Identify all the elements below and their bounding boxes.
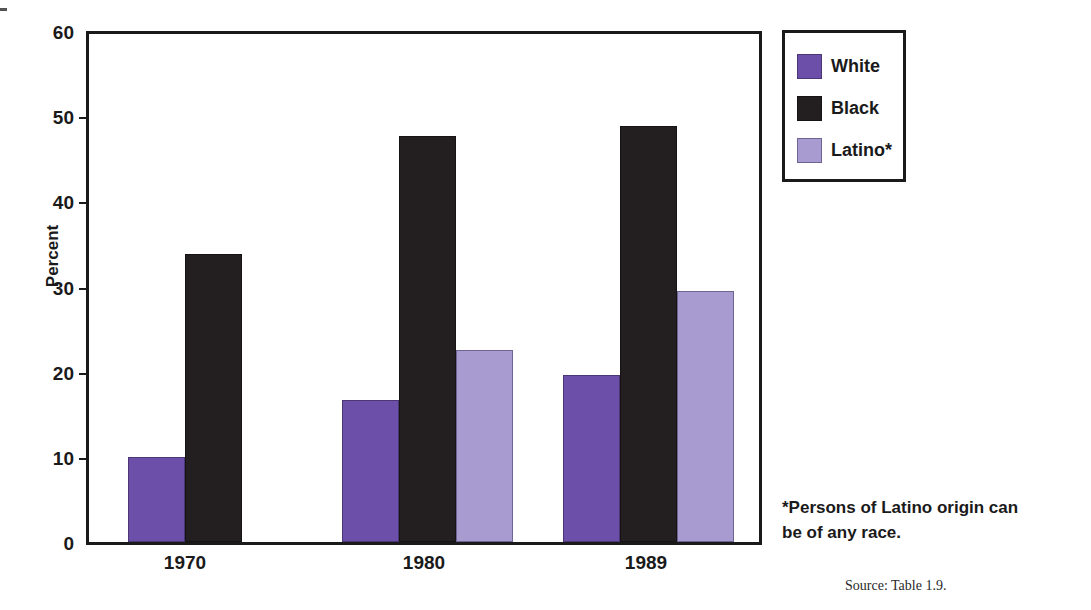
legend-label-latino: Latino* [831, 140, 892, 161]
chart-source: Source: Table 1.9. [845, 578, 1085, 594]
bars-container [89, 34, 759, 542]
x-axis-label-1989: 1989 [566, 553, 726, 572]
x-axis-label-1980: 1980 [344, 553, 504, 572]
bar-1980-white [342, 400, 399, 542]
y-tick-label-0: 0 [14, 534, 74, 553]
legend-item-latino: Latino* [797, 129, 903, 171]
bar-1989-latino [677, 291, 734, 542]
plot-area [86, 31, 762, 545]
bar-1970-white [128, 457, 185, 543]
y-tick-label-60: 60 [14, 23, 74, 42]
legend-label-black: Black [831, 98, 879, 119]
x-axis-label-1970: 1970 [105, 553, 265, 572]
footnote-line-1: *Persons of Latino origin can [782, 496, 1082, 521]
chart-footnote: *Persons of Latino origin can be of any … [782, 496, 1082, 545]
bar-1980-latino [456, 350, 513, 542]
y-tick-label-20: 20 [14, 364, 74, 383]
legend-item-black: Black [797, 87, 903, 129]
legend-item-white: White [797, 45, 903, 87]
bar-1989-white [563, 375, 620, 542]
bar-chart-figure: Percent 60 50 40 30 20 10 0 1970 1980 19… [0, 0, 1091, 610]
bar-1980-black [399, 136, 456, 542]
legend-swatch-latino-icon [797, 138, 822, 163]
y-tick-label-50: 50 [14, 108, 74, 127]
bar-1989-black [620, 126, 677, 542]
legend-swatch-white-icon [797, 54, 822, 79]
y-tick-label-40: 40 [14, 193, 74, 212]
footnote-line-2: be of any race. [782, 521, 1082, 546]
page-edge-mark [0, 8, 7, 11]
legend-swatch-black-icon [797, 96, 822, 121]
y-tick-label-10: 10 [14, 449, 74, 468]
legend-label-white: White [831, 56, 880, 77]
chart-legend: White Black Latino* [782, 30, 906, 182]
bar-1970-black [185, 254, 242, 542]
y-tick-label-30: 30 [14, 279, 74, 298]
